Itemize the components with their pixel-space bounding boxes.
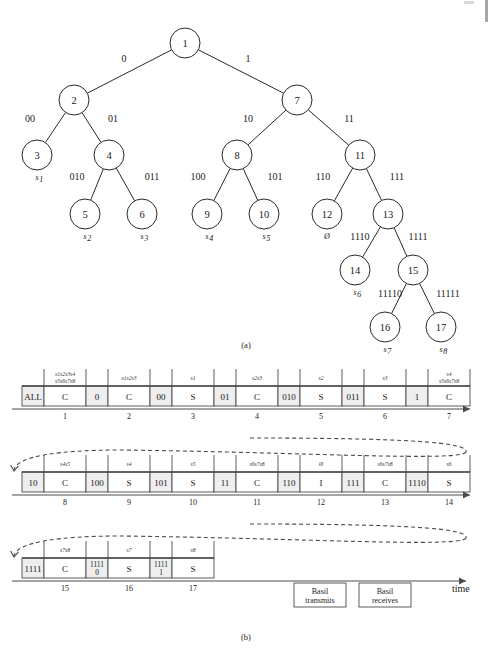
timeline-cell: 110: [278, 472, 300, 492]
tree-edge-n4-n6: [116, 168, 134, 201]
timeline-cell-head: s7s8: [60, 547, 70, 553]
timeline-wrap-sweep: [14, 536, 466, 556]
tree-node-label: 7: [294, 95, 299, 106]
tree-node-label: 6: [139, 209, 144, 220]
legend-group: BasiltransmitsBasilreceives: [294, 583, 411, 607]
time-axis-label: time: [452, 583, 470, 594]
tree-node-8: 8: [222, 140, 252, 170]
svg-text:s: s: [383, 345, 386, 354]
timeline-cell: C: [236, 386, 278, 406]
scan-artifact-top: [464, 1, 474, 4]
legend-label-line2: transmits: [305, 596, 334, 605]
timeline-cell-label: I: [320, 478, 323, 488]
tree-edge-label-12: 1110: [350, 231, 369, 242]
timeline-cell-label: 011: [346, 392, 359, 402]
timeline-cell-label: S: [190, 392, 195, 402]
tree-edge-label-14: 11110: [378, 288, 402, 299]
timeline-cell: S: [364, 386, 406, 406]
time-axis-arrow: [463, 406, 470, 413]
timeline-group: ALLs1s2s3s4s5s6s7s81C0s1s2s32C00s13S01s2…: [11, 369, 470, 593]
svg-text:s: s: [353, 288, 356, 297]
timeline-cell-label: C: [254, 392, 260, 402]
tree-leaf-label-4: s5: [262, 232, 270, 243]
timeline-cell-head: s6s7s8: [378, 461, 393, 467]
timeline-cell: 10: [22, 472, 44, 492]
tree-edge-label-2: 00: [25, 113, 35, 124]
timeline-cell: S: [428, 472, 470, 492]
timeline-cell-head: s6: [447, 461, 452, 467]
time-axis-arrow: [463, 492, 470, 499]
tree-node-9: 9: [192, 199, 222, 229]
timeline-cell-label: 111: [347, 478, 360, 488]
timeline-cell: C: [44, 386, 86, 406]
tree-node-label: 10: [259, 209, 270, 220]
tree-node-13: 13: [373, 199, 403, 229]
timeline-cell: 11: [214, 472, 236, 492]
timeline-slot-number: 9: [127, 498, 131, 507]
legend-label-line1: Basil: [312, 587, 329, 596]
figure-root: 1273481156910121314151617 01000110110100…: [0, 0, 492, 668]
tree-leaf-label-3: s4: [205, 232, 213, 243]
timeline-cell: 1110: [406, 472, 428, 492]
svg-text:s: s: [262, 232, 265, 241]
timeline-cell: 11110: [86, 558, 108, 578]
tree-node-label: 9: [204, 209, 209, 220]
tree-node-label: 15: [408, 265, 419, 276]
timeline-cell-label: S: [126, 564, 131, 574]
tree-node-14: 14: [340, 255, 370, 285]
tree-edge-n11-n13: [366, 169, 381, 201]
timeline-cell-label: 1111: [25, 564, 42, 574]
timeline-cell-label: C: [62, 564, 68, 574]
timeline-cell-head: s1s2s3s4: [55, 371, 75, 377]
timeline-cell-label: 11: [221, 478, 230, 488]
timeline-cell: C: [364, 472, 406, 492]
timeline-cell-label: 1110: [408, 478, 426, 488]
tree-node-label: 2: [71, 95, 76, 106]
timeline-cell-label: S: [126, 478, 131, 488]
tree-leaf-label-8: Ø: [323, 232, 331, 241]
timeline-cell-label: 10: [29, 478, 39, 488]
tree-edge-n1-n7: [198, 50, 283, 93]
tree-edge-n2-n3: [45, 112, 65, 142]
timeline-cell-head: s4: [127, 461, 132, 467]
tree-node-4: 4: [94, 140, 124, 170]
timeline-wrap-right: [250, 524, 466, 538]
timeline-slot-number: 7: [447, 412, 451, 421]
timeline-slot-number: 6: [383, 412, 387, 421]
tree-leaf-label-6: s7: [383, 345, 392, 356]
legend-item-1: Basilreceives: [359, 583, 411, 607]
figure-canvas: 1273481156910121314151617 01000110110100…: [0, 0, 492, 668]
tree-edge-label-1: 1: [246, 53, 251, 64]
timeline-cell: C: [428, 386, 470, 406]
tree-node-5: 5: [70, 199, 100, 229]
tree-leaf-label-7: s8: [439, 345, 447, 356]
tree-node-3: 3: [22, 140, 52, 170]
timeline-slot-number: 1: [63, 412, 67, 421]
timeline-cell-label: C: [254, 478, 260, 488]
timeline-cell-head: s8: [191, 547, 196, 553]
tree-node-17: 17: [426, 312, 456, 342]
timeline-cell: C: [108, 386, 150, 406]
svg-text:8: 8: [443, 347, 447, 356]
timeline-cell-head: Ø: [318, 461, 324, 467]
timeline-cell-label: 101: [154, 478, 168, 488]
tree-node-2: 2: [59, 85, 89, 115]
tree-edge-label-5: 11: [344, 113, 354, 124]
timeline-cell-head: s4: [447, 371, 452, 377]
svg-text:4: 4: [209, 234, 213, 243]
timeline-slot-number: 11: [253, 498, 261, 507]
tree-edge-label-10: 110: [316, 171, 331, 182]
tree-node-label: 5: [82, 209, 87, 220]
timeline-slot-number: 13: [381, 498, 389, 507]
tree-node-label: 4: [106, 150, 112, 161]
svg-text:s: s: [140, 232, 143, 241]
svg-text:2: 2: [87, 234, 91, 243]
timeline-cell: S: [172, 472, 214, 492]
tree-node-10: 10: [249, 199, 279, 229]
timeline-slot-number: 15: [61, 584, 69, 593]
timeline-cell: 0: [86, 386, 108, 406]
timeline-cell-head: s1: [191, 375, 196, 381]
legend-item-0: Basiltransmits: [294, 583, 346, 607]
tree-edge-label-4: 10: [243, 113, 253, 124]
timeline-cell: C: [44, 472, 86, 492]
